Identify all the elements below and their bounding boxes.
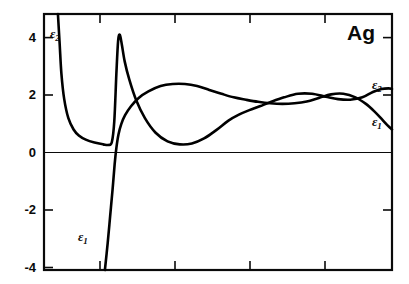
y-tick-label-0: 0 xyxy=(29,145,36,160)
x-axis-ticks-bottom xyxy=(100,261,325,270)
curve-epsilon-2 xyxy=(58,14,392,145)
sample-label-ag: Ag xyxy=(347,21,375,44)
y-tick-label-minus2: -2 xyxy=(24,202,36,217)
y-tick-label-2: 2 xyxy=(29,87,36,102)
y-tick-label-4: 4 xyxy=(29,30,37,45)
label-epsilon-2-inner-sub: 2 xyxy=(54,33,60,43)
x-axis-ticks-top xyxy=(100,14,325,23)
dielectric-function-figure: 4 2 0 -2 -4 ε2 ε1 ε2 ε1 Ag xyxy=(0,0,409,284)
label-epsilon-1-inner: ε1 xyxy=(78,229,88,246)
label-epsilon-2-right: ε2 xyxy=(372,77,382,94)
label-epsilon-1-right-sub: 1 xyxy=(377,121,382,131)
label-epsilon-1-inner-sub: 1 xyxy=(83,236,88,246)
plot-svg: 4 2 0 -2 -4 ε2 ε1 ε2 ε1 Ag xyxy=(0,0,409,284)
label-epsilon-2-right-sub: 2 xyxy=(376,84,382,94)
y-tick-label-minus4: -4 xyxy=(24,260,36,275)
